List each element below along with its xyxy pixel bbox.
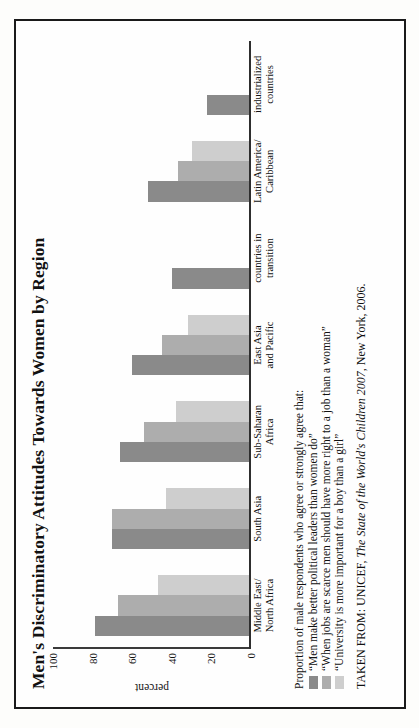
legend-rows: “Men make better political leaders than … xyxy=(307,35,345,689)
bar-group xyxy=(53,575,251,636)
y-axis-line xyxy=(53,647,251,649)
x-tick-label: Latin America/Caribbean xyxy=(252,128,276,215)
x-tick-label: Middle East/North Africa xyxy=(252,562,276,649)
bar xyxy=(187,315,250,335)
source-prefix: TAKEN FROM: UNICEF, xyxy=(354,558,368,689)
x-tick-label: Sub-SaharanAfrica xyxy=(252,388,276,475)
legend-label: “Men make better political leaders than … xyxy=(307,433,319,671)
y-tick-label: 80 xyxy=(86,653,98,664)
bar xyxy=(171,268,250,288)
legend-item: “When jobs are scarce men should have mo… xyxy=(320,35,332,689)
bar xyxy=(157,575,250,595)
legend-label: “When jobs are scarce men should have mo… xyxy=(320,326,332,671)
y-tick-label: 100 xyxy=(47,653,59,670)
rotated-figure-wrapper: Men's Discriminatory Attitudes Towards W… xyxy=(0,0,419,728)
bar xyxy=(207,95,251,115)
bar-group xyxy=(53,54,251,115)
bar-group xyxy=(53,315,251,376)
page-title: Men's Discriminatory Attitudes Towards W… xyxy=(28,35,49,689)
chart-figure: Men's Discriminatory Attitudes Towards W… xyxy=(14,19,406,709)
legend-label: “University is more important for a boy … xyxy=(333,434,345,671)
y-axis-label-text: percent xyxy=(135,682,169,694)
x-axis-category-labels: Middle East/North AfricaSouth AsiaSub-Sa… xyxy=(251,41,285,649)
x-tick-label: East Asiaand Pacific xyxy=(252,302,276,389)
source-attribution: TAKEN FROM: UNICEF, The State of the Wor… xyxy=(354,35,369,689)
bar xyxy=(175,402,250,422)
y-axis-label: percent xyxy=(53,681,251,695)
x-tick-label: South Asia xyxy=(252,475,264,562)
source-suffix: , New York, 2006. xyxy=(354,284,368,372)
legend-item: “Men make better political leaders than … xyxy=(307,35,319,689)
bar-group xyxy=(53,228,251,289)
bar xyxy=(165,488,250,508)
y-tick-label: 20 xyxy=(205,653,217,664)
y-tick-label: 60 xyxy=(126,653,138,664)
bar xyxy=(191,141,250,161)
y-tick-label: 40 xyxy=(165,653,177,664)
y-tick-label: 0 xyxy=(245,653,257,659)
legend-swatch xyxy=(334,676,343,689)
x-tick-label: industrializedcountries xyxy=(252,41,276,128)
bar xyxy=(144,422,251,442)
legend-item: “University is more important for a boy … xyxy=(333,35,345,689)
bar xyxy=(94,616,250,636)
bar-group xyxy=(53,401,251,462)
bar-group xyxy=(53,141,251,202)
bar xyxy=(177,161,250,181)
plot-area: percent 020406080100 Middle East/North A… xyxy=(53,35,285,693)
bar xyxy=(120,442,251,462)
bar-group xyxy=(53,488,251,549)
legend-swatch xyxy=(321,676,330,689)
bar xyxy=(132,355,251,375)
x-tick-label: countries intransition xyxy=(252,215,276,302)
bar xyxy=(118,595,251,615)
bar xyxy=(148,181,251,201)
bar xyxy=(112,529,251,549)
legend: Proportion of male respondents who agree… xyxy=(293,35,345,689)
y-axis-ticks: 020406080100 xyxy=(53,651,251,677)
plot-inner xyxy=(53,41,251,649)
legend-title: Proportion of male respondents who agree… xyxy=(293,35,305,689)
bar xyxy=(161,335,250,355)
bar xyxy=(112,509,251,529)
legend-swatch xyxy=(308,676,317,689)
scanned-page: Men's Discriminatory Attitudes Towards W… xyxy=(0,0,419,728)
source-title: The State of the World's Children 2007 xyxy=(354,371,368,557)
